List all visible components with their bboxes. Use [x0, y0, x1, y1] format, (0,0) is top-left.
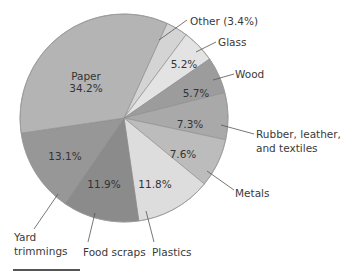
category-label: Plastics	[152, 246, 191, 258]
value-label: 13.1%	[48, 150, 81, 162]
leader-line	[34, 194, 58, 229]
category-label: Yard	[13, 231, 36, 243]
category-label: trimmings	[14, 245, 68, 257]
value-label: 11.9%	[87, 178, 120, 190]
leader-line	[207, 171, 234, 190]
value-label: Paper	[71, 70, 101, 82]
category-label: Wood	[235, 68, 264, 80]
value-label: 5.7%	[183, 87, 210, 99]
value-label: 11.8%	[138, 178, 171, 190]
value-label: 7.6%	[170, 148, 197, 160]
value-label: 5.2%	[171, 58, 198, 70]
value-label: 34.2%	[69, 82, 102, 94]
category-label: and textiles	[256, 142, 318, 154]
footer-rule	[13, 269, 80, 271]
category-label: Rubber, leather,	[256, 128, 341, 140]
value-label: 7.3%	[177, 118, 204, 130]
category-label: Glass	[218, 36, 246, 48]
category-label: Metals	[235, 187, 269, 199]
pie-chart: 5.2%5.7%7.3%7.6%11.8%11.9%13.1%Paper34.2…	[0, 0, 346, 272]
category-label: Food scraps	[83, 246, 146, 258]
leader-line	[88, 213, 95, 242]
category-label: Other (3.4%)	[190, 15, 258, 27]
